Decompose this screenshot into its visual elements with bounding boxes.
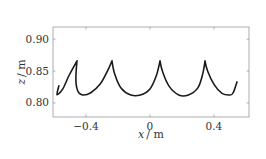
- y-tick-label: 0.90: [26, 33, 49, 45]
- trajectory-chart: −0.400.40.800.850.90 x/ m z/ m: [0, 0, 266, 159]
- axis-ticks: [53, 27, 249, 117]
- x-tick-label: −0.4: [73, 120, 99, 132]
- y-tick-label: 0.80: [26, 96, 49, 108]
- plot-frame: [53, 27, 249, 117]
- x-axis-label: x/ m: [138, 128, 164, 141]
- x-tick-label: 0.4: [206, 120, 223, 132]
- y-axis-label: z/ m: [15, 59, 28, 86]
- trajectory-line: [57, 61, 237, 96]
- y-tick-label: 0.85: [26, 65, 49, 77]
